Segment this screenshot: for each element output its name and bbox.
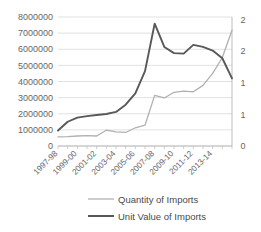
right-axis-tick-label: 1	[240, 110, 245, 120]
left-axis-tick-label: 1000000	[18, 125, 53, 135]
right-axis-tick-label: 0	[240, 141, 245, 151]
right-axis-tick-label: 2	[240, 15, 245, 25]
left-axis-tick-label: 5000000	[18, 61, 53, 71]
line-chart: 0100000020000003000000400000050000006000…	[0, 0, 261, 232]
left-axis-tick-label: 2000000	[18, 109, 53, 119]
chart-container: 0100000020000003000000400000050000006000…	[0, 0, 261, 232]
series-line-quantity-of-imports	[58, 30, 232, 137]
legend-label: Unit Value of Imports	[118, 211, 206, 222]
left-axis-tick-label: 8000000	[18, 12, 53, 22]
left-axis-tick-label: 3000000	[18, 93, 53, 103]
right-axis-tick-label: 1	[240, 78, 245, 88]
left-axis-tick-label: 4000000	[18, 77, 53, 87]
left-axis-tick-label: 7000000	[18, 28, 53, 38]
left-axis-tick-label: 6000000	[18, 44, 53, 54]
right-axis-tick-label: 2	[240, 46, 245, 56]
series-line-unit-value-of-imports	[58, 24, 232, 131]
legend-label: Quantity of Imports	[118, 194, 199, 205]
